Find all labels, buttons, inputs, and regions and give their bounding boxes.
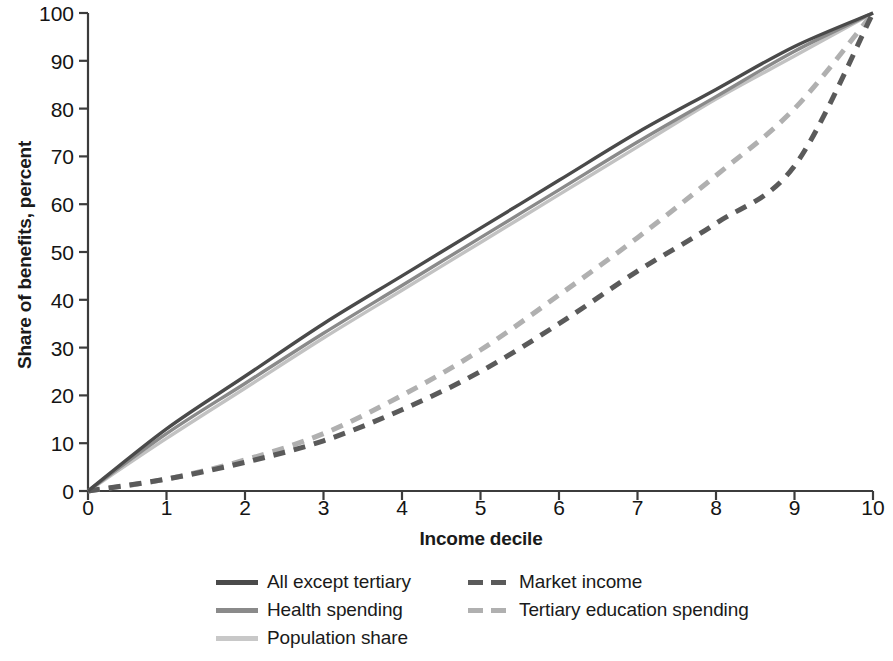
series-lines xyxy=(88,13,873,491)
series-line xyxy=(88,13,873,491)
x-axis-label: Income decile xyxy=(88,528,874,550)
plot-area xyxy=(0,0,893,661)
legend-swatch-dashed-icon xyxy=(468,602,510,618)
legend-column-left: All except tertiary Health spending Popu… xyxy=(216,568,411,652)
legend-swatch-line-icon xyxy=(216,602,258,618)
axis-lines xyxy=(79,13,873,500)
legend-item-tertiary-education-spending[interactable]: Tertiary education spending xyxy=(468,596,749,624)
series-line xyxy=(88,13,873,491)
legend-swatch-dashed-icon xyxy=(468,574,510,590)
legend-swatch-line-icon xyxy=(216,574,258,590)
legend-item-population-share[interactable]: Population share xyxy=(216,624,411,652)
legend-column-right: Market income Tertiary education spendin… xyxy=(468,568,749,624)
legend-label: Health spending xyxy=(267,599,403,621)
legend-item-all-except-tertiary[interactable]: All except tertiary xyxy=(216,568,411,596)
legend-label: Tertiary education spending xyxy=(519,599,749,621)
legend-swatch-line-icon xyxy=(216,630,258,646)
series-line xyxy=(88,13,873,491)
legend-label: Population share xyxy=(267,627,408,649)
legend-item-health-spending[interactable]: Health spending xyxy=(216,596,411,624)
series-line xyxy=(88,13,873,491)
legend-item-market-income[interactable]: Market income xyxy=(468,568,749,596)
series-line xyxy=(88,13,873,491)
legend-label: All except tertiary xyxy=(267,571,411,593)
legend-label: Market income xyxy=(519,571,642,593)
lorenz-curve-chart: Share of benefits, percent 100 90 80 70 … xyxy=(0,0,893,661)
